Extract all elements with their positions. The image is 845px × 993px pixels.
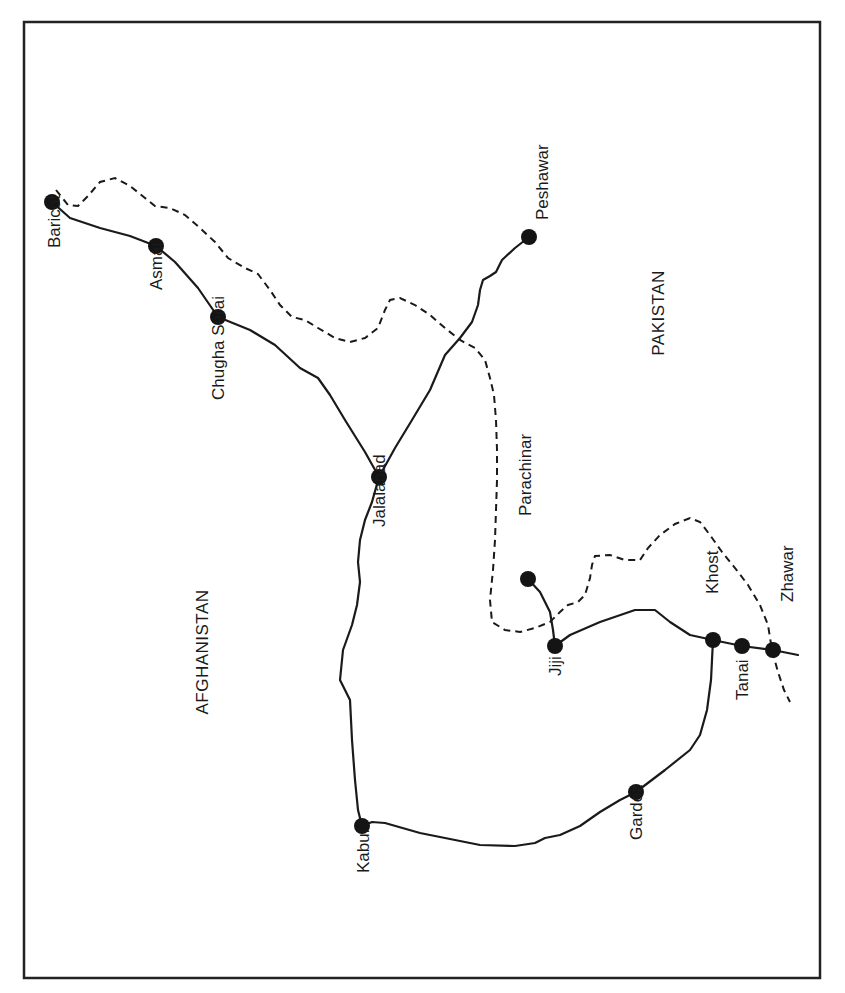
- city-label-asmar: Asmar: [147, 241, 166, 290]
- city-label-zhawar: Zhawar: [778, 545, 797, 602]
- city-label-tanai: Tanai: [733, 659, 752, 700]
- city-marker-jiji[interactable]: [547, 638, 563, 654]
- road-jalalabad-kabul: [340, 477, 379, 826]
- road-jalalabad-peshawar: [379, 237, 529, 477]
- roads-layer: [52, 202, 798, 846]
- road-jiji-khost-zhawar: [555, 610, 798, 655]
- map-svg: BaricotAsmarChugha SeraiJalalabadPeshawa…: [0, 0, 845, 993]
- map-canvas: BaricotAsmarChugha SeraiJalalabadPeshawa…: [0, 0, 845, 993]
- country-labels-layer: AFGHANISTANPAKISTAN: [193, 270, 668, 714]
- city-marker-parachinar[interactable]: [520, 571, 536, 587]
- country-label-pakistan: PAKISTAN: [649, 270, 668, 356]
- city-label-gardez: Gardez: [627, 784, 646, 840]
- country-label-afghanistan: AFGHANISTAN: [193, 589, 212, 714]
- city-label-peshawar: Peshawar: [533, 144, 552, 220]
- city-label-jiji: Jiji: [546, 656, 565, 676]
- city-label-khost: Khost: [703, 550, 722, 594]
- city-marker-zhawar[interactable]: [765, 642, 781, 658]
- city-label-baricot: Baricot: [45, 195, 64, 248]
- road-kabul-gardez-khost: [362, 640, 713, 846]
- labels-layer: BaricotAsmarChugha SeraiJalalabadPeshawa…: [45, 144, 797, 873]
- city-label-jalalabad: Jalalabad: [370, 454, 389, 527]
- city-marker-khost[interactable]: [705, 632, 721, 648]
- city-label-chugha-serai: Chugha Serai: [209, 296, 228, 400]
- city-marker-peshawar[interactable]: [521, 229, 537, 245]
- international-border-layer: [56, 178, 790, 702]
- border-line-border-north: [56, 178, 790, 702]
- road-parachinar-jiji: [528, 579, 555, 646]
- map-frame-border: [24, 22, 820, 978]
- city-label-parachinar: Parachinar: [516, 433, 535, 516]
- city-marker-tanai[interactable]: [734, 638, 750, 654]
- city-label-kabul: Kabul: [354, 830, 373, 873]
